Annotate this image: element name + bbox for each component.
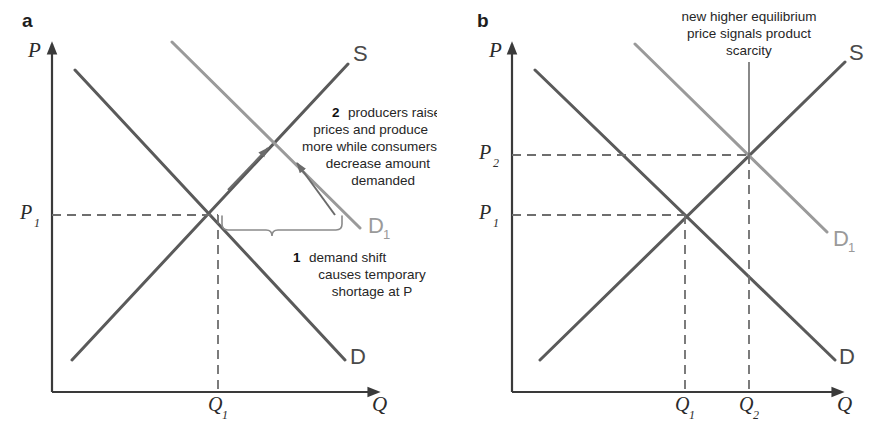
panel-b-x-axis-label: Q [837,392,852,416]
panel-b-demand-shifted-subscript: 1 [848,240,855,255]
panel-b-letter: b [477,10,489,31]
panel-b-quantity-2-subscript: 2 [753,408,759,421]
panel-b: b P Q P 2 P 1 Q 1 [437,0,874,421]
panel-a-price-1-letter: P [19,201,32,223]
panel-b-supply-label: S [849,40,864,65]
panel-a-supply-label: S [353,41,368,66]
panel-a-demand-shifted-label: D 1 [368,213,390,243]
panel-a-note-2: 2 producers raise prices and produce mor… [302,103,437,187]
panel-a-note-1-number: 1 [293,250,301,265]
panel-a-quantity-1-tick: Q 1 [208,393,228,421]
panel-b-note-line-3: scarcity [726,43,772,58]
panel-b-demand-shifted-letter: D [833,226,849,251]
panel-b-demand-shifted-label: D 1 [833,226,855,256]
panel-b-price-1-letter: P [478,201,491,223]
panel-a-note-1-line-3: shortage at P [332,284,412,299]
svg-text:2 producers raise: 2 producers raise [332,103,437,120]
panel-a-note-2-number: 2 [332,105,340,120]
panel-a-note-2-line-4: decrease amount [326,156,431,171]
panel-a-note-1-line-2: causes temporary [318,267,426,282]
panel-b-quantity-1-subscript: 1 [689,408,695,421]
panel-a-letter: a [22,10,33,31]
panel-a-note-2-line-1: producers raise [348,105,437,120]
panel-a-note-2-line-5: demanded [351,173,415,188]
figure-root: a P Q P 1 Q 1 S D D 1 [0,0,874,421]
panel-b-price-2-tick: P 2 [478,141,499,170]
panel-a-note-2-line-3: more while consumers [302,139,437,154]
panel-b-y-axis-label: P [488,38,502,62]
panel-a-demand-label: D [350,344,366,369]
panel-b-note: new higher equilibrium price signals pro… [681,9,816,58]
panel-a-note-2-line-2: prices and produce [313,122,428,137]
panel-a-price-1-tick: P 1 [19,201,40,230]
panel-b-quantity-2-letter: Q [739,393,754,415]
panel-a-quantity-1-letter: Q [208,393,223,415]
panel-b-price-2-letter: P [478,141,491,163]
panel-b-price-2-subscript: 2 [493,156,499,170]
panel-b-demand-label: D [839,344,855,369]
panel-b-demand-shifted-curve [635,44,827,232]
panel-b-quantity-1-letter: Q [675,393,690,415]
panel-a-note-2-leader-arrow [297,163,335,215]
panel-b-price-1-tick: P 1 [478,201,499,230]
panel-a-quantity-1-subscript: 1 [222,408,228,421]
panel-a-price-1-subscript: 1 [34,216,40,230]
panel-a-supply-direction-arrow [228,148,268,190]
panel-b-note-line-1: new higher equilibrium [681,9,816,24]
panel-a-y-axis-label: P [27,38,41,62]
panel-a-x-axis-label: Q [372,392,387,416]
svg-text:1 demand shift: 1 demand shift [293,248,387,265]
panel-a-note-1: 1 demand shift causes temporary shortage… [293,248,426,298]
panel-b-price-1-subscript: 1 [493,216,499,230]
panel-b-supply-curve [540,62,845,360]
panel-b-quantity-1-tick: Q 1 [675,393,695,421]
panel-b-note-line-2: price signals product [687,26,811,41]
panel-a: a P Q P 1 Q 1 S D D 1 [0,0,437,421]
panel-a-supply-curve [72,64,348,360]
panel-a-shortage-brace [222,216,342,236]
panel-a-note-1-line-1: demand shift [309,250,387,265]
panel-a-demand-shifted-letter: D [368,213,384,238]
panel-b-quantity-2-tick: Q 2 [739,393,759,421]
panel-a-demand-shifted-subscript: 1 [383,227,390,242]
